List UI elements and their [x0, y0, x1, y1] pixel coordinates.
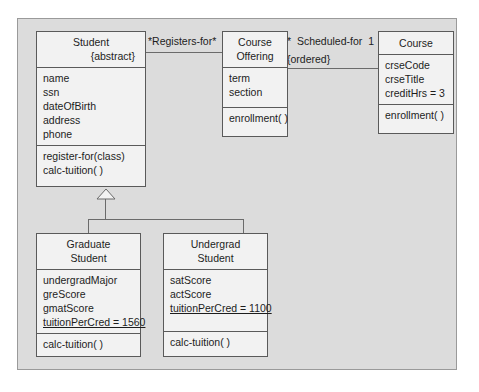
class-name-compartment-undergrad-student: Undergrad Student — [164, 234, 267, 269]
class-box-undergrad-student[interactable]: Undergrad Student satScore actScore tuit… — [163, 233, 268, 357]
attribute-item-static: tuitionPerCred = 1560 — [43, 315, 134, 329]
attribute-item: creditHrs = 3 — [385, 86, 447, 100]
operation-compartment-course: enrollment( ) — [379, 104, 453, 126]
generalization-triangle-icon — [96, 188, 116, 201]
class-name-course-offering-line1: Course — [229, 35, 281, 49]
attribute-compartment-graduate-student: undergradMajor greScore gmatScore tuitio… — [37, 269, 140, 333]
class-name-student: Student — [43, 35, 139, 49]
class-name-compartment-graduate-student: Graduate Student — [37, 234, 140, 269]
operation-item: calc-tuition( ) — [170, 335, 261, 349]
class-name-course-offering-line2: Offering — [229, 49, 281, 63]
generalization-stem — [105, 199, 106, 219]
attribute-item: greScore — [43, 287, 134, 301]
attribute-item: actScore — [170, 287, 261, 301]
class-name-course: Course — [385, 36, 447, 50]
class-box-course-offering[interactable]: Course Offering term section enrollment(… — [222, 31, 288, 137]
operation-compartment-graduate-student: calc-tuition( ) — [37, 333, 140, 355]
operation-item: calc-tuition( ) — [43, 163, 139, 177]
attribute-item: crseTitle — [385, 72, 447, 86]
attribute-compartment-student: name ssn dateOfBirth address phone — [37, 67, 145, 145]
diagram-canvas: *Registers-for* * Scheduled-for 1 {order… — [0, 0, 479, 392]
attribute-item: satScore — [170, 273, 261, 287]
class-name-graduate-student-line2: Student — [43, 251, 134, 265]
operation-item: enrollment( ) — [229, 111, 281, 125]
attribute-item: dateOfBirth — [43, 99, 139, 113]
class-tag-student: {abstract} — [43, 49, 139, 63]
attribute-item: section — [229, 85, 281, 99]
attribute-item: undergradMajor — [43, 273, 134, 287]
class-name-undergrad-student-line1: Undergrad — [170, 237, 261, 251]
attribute-item: phone — [43, 127, 139, 141]
generalization-branch-graduate — [88, 219, 89, 233]
class-name-undergrad-student-line2: Student — [170, 251, 261, 265]
class-box-student[interactable]: Student {abstract} name ssn dateOfBirth … — [36, 31, 146, 187]
attribute-compartment-course: crseCode crseTitle creditHrs = 3 — [379, 54, 453, 104]
class-box-graduate-student[interactable]: Graduate Student undergradMajor greScore… — [36, 233, 141, 357]
attribute-item: crseCode — [385, 58, 447, 72]
class-name-compartment-course: Course — [379, 32, 453, 54]
operation-item: calc-tuition( ) — [43, 337, 134, 351]
class-name-compartment-course-offering: Course Offering — [223, 32, 287, 67]
attribute-item-static: tuitionPerCred = 1100 — [170, 301, 261, 315]
association-line-registers-for — [146, 52, 222, 53]
class-name-compartment-student: Student {abstract} — [37, 32, 145, 67]
attribute-item: term — [229, 71, 281, 85]
association-line-scheduled-for — [278, 68, 378, 69]
operation-compartment-student: register-for(class) calc-tuition( ) — [37, 145, 145, 181]
attribute-item: ssn — [43, 85, 139, 99]
operation-item: enrollment( ) — [385, 108, 447, 122]
operation-compartment-course-offering: enrollment( ) — [223, 107, 287, 129]
attribute-item: address — [43, 113, 139, 127]
attribute-item: gmatScore — [43, 301, 134, 315]
attribute-compartment-undergrad-student: satScore actScore tuitionPerCred = 1100 — [164, 269, 267, 331]
operation-item: register-for(class) — [43, 149, 139, 163]
generalization-crossbar — [88, 219, 243, 220]
attribute-item: name — [43, 71, 139, 85]
attribute-compartment-course-offering: term section — [223, 67, 287, 107]
association-constraint-ordered: {ordered} — [287, 53, 330, 66]
class-box-course[interactable]: Course crseCode crseTitle creditHrs = 3 … — [378, 31, 454, 134]
operation-compartment-undergrad-student: calc-tuition( ) — [164, 331, 267, 353]
association-label-scheduled-for: * Scheduled-for 1 — [287, 35, 374, 48]
association-label-registers-for: *Registers-for* — [148, 35, 216, 48]
generalization-branch-undergrad — [243, 219, 244, 233]
class-name-graduate-student-line1: Graduate — [43, 237, 134, 251]
